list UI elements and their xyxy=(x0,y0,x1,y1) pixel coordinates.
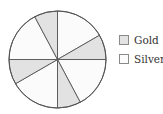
legend-label-silver: Silver xyxy=(134,53,163,65)
legend-item-silver: Silver xyxy=(119,50,163,67)
gold-swatch xyxy=(119,35,129,45)
legend-item-gold: Gold xyxy=(119,31,163,48)
legend-label-gold: Gold xyxy=(134,34,159,46)
silver-swatch xyxy=(119,54,129,64)
legend: Gold Silver xyxy=(119,31,163,69)
pie-chart xyxy=(0,0,116,114)
